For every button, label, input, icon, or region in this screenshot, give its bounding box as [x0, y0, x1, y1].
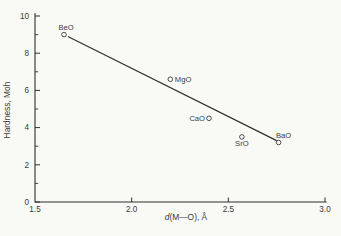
y-tick-label: 6: [24, 86, 29, 95]
hardness-vs-bond-length-chart: 02468101.52.02.53.0d(M—O), ÅHardness, Mo…: [0, 0, 341, 236]
scatter-figure: 02468101.52.02.53.0d(M—O), ÅHardness, Mo…: [0, 0, 341, 236]
point-label-SrO: SrO: [235, 139, 249, 148]
y-tick-label: 2: [24, 161, 29, 170]
x-axis-title: d(M—O), Å: [165, 212, 208, 222]
x-tick-label: 3.0: [319, 205, 331, 214]
figure-background: [0, 0, 341, 236]
point-label-BaO: BaO: [276, 131, 291, 140]
point-label-BeO: BeO: [58, 23, 73, 32]
y-axis-title: Hardness, Moh: [2, 81, 12, 138]
point-label-CaO: CaO: [189, 114, 205, 123]
y-tick-label: 8: [24, 49, 29, 58]
x-tick-label: 1.5: [29, 205, 41, 214]
y-tick-label: 4: [24, 123, 29, 132]
x-tick-label: 2.5: [223, 205, 235, 214]
x-tick-label: 2.0: [126, 205, 138, 214]
y-tick-label: 10: [20, 12, 30, 21]
point-label-MgO: MgO: [175, 75, 192, 84]
